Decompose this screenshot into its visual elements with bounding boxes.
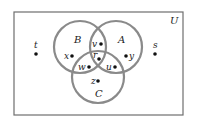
point-s-dot	[153, 52, 157, 56]
point-y-dot	[124, 54, 128, 58]
universe-label: U	[170, 15, 179, 26]
point-z-dot	[96, 79, 100, 83]
point-r-label: r	[93, 50, 98, 60]
venn-diagram: U ABC tsxyvrwuz	[0, 0, 197, 121]
sets-group: ABC	[54, 21, 142, 103]
point-t-dot	[34, 52, 38, 56]
point-w-label: w	[78, 62, 86, 72]
point-v-label: v	[92, 39, 97, 49]
set-a-label: A	[117, 34, 125, 45]
point-x-dot	[70, 54, 74, 58]
point-t-label: t	[34, 40, 38, 50]
point-u-label: u	[106, 62, 112, 72]
point-s-label: s	[153, 40, 158, 50]
point-u-dot	[113, 65, 117, 69]
point-y-label: y	[128, 51, 135, 61]
set-b-label: B	[73, 34, 81, 45]
set-c-label: C	[95, 88, 103, 99]
point-x-label: x	[64, 51, 69, 61]
point-z-label: z	[90, 76, 96, 86]
point-r-dot	[97, 57, 101, 61]
point-v-dot	[99, 42, 103, 46]
point-w-dot	[87, 65, 91, 69]
